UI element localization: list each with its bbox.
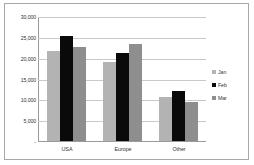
- bar-usa-feb[interactable]: [60, 36, 73, 141]
- bar-usa-mar[interactable]: [73, 47, 86, 141]
- bar-europe-feb[interactable]: [116, 53, 129, 141]
- plot-area: [38, 17, 206, 142]
- chart-legend: JanFebMar: [212, 65, 246, 104]
- y-axis-tick-label: 5,000: [24, 118, 36, 124]
- x-axis-tick-label-usa: USA: [39, 146, 95, 152]
- bar-groups: [39, 17, 206, 141]
- bar-group-europe: [103, 17, 142, 141]
- y-axis-tick-label: 20,000: [21, 56, 36, 62]
- bar-group-usa: [47, 17, 86, 141]
- y-axis-tick-label: 25,000: [21, 35, 36, 41]
- legend-label: Mar: [218, 95, 227, 101]
- chart-frame: 30,00025,00020,00015,00010,0005,000- USA…: [4, 3, 249, 160]
- legend-item-jan[interactable]: Jan: [212, 65, 246, 78]
- y-axis-tick-label: 30,000: [21, 14, 36, 20]
- legend-item-mar[interactable]: Mar: [212, 91, 246, 104]
- x-axis-tick-label-other: Other: [151, 146, 207, 152]
- x-axis-tick-label-europe: Europe: [95, 146, 151, 152]
- y-axis-tick-label: 10,000: [21, 97, 36, 103]
- y-axis-tick-labels: 30,00025,00020,00015,00010,0005,000-: [7, 17, 36, 142]
- bar-other-feb[interactable]: [172, 91, 185, 141]
- legend-item-feb[interactable]: Feb: [212, 78, 246, 91]
- bar-usa-jan[interactable]: [47, 51, 60, 141]
- legend-swatch-icon: [212, 96, 216, 100]
- bar-other-mar[interactable]: [185, 102, 198, 141]
- legend-label: Jan: [218, 69, 226, 75]
- legend-label: Feb: [218, 82, 227, 88]
- y-axis-tick-label: -: [34, 139, 36, 145]
- x-axis-line: [38, 141, 206, 142]
- bar-europe-mar[interactable]: [129, 44, 142, 141]
- bar-other-jan[interactable]: [159, 97, 172, 141]
- bar-group-other: [159, 17, 198, 141]
- y-axis-tick-label: 15,000: [21, 77, 36, 83]
- bar-europe-jan[interactable]: [103, 62, 116, 141]
- legend-swatch-icon: [212, 70, 216, 74]
- x-axis-tick-labels: USAEuropeOther: [39, 146, 207, 152]
- legend-swatch-icon: [212, 83, 216, 87]
